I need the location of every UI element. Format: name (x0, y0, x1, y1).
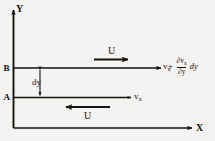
partial-derivative-fraction: ∂vx ∂y (176, 57, 188, 76)
plus-sign: + (168, 61, 173, 71)
lower-velocity-subscript: x (139, 95, 142, 102)
upper-layer-label: B (4, 64, 10, 73)
differential-dy: dy (190, 61, 198, 71)
fraction-numerator: ∂vx (176, 57, 188, 67)
numerator-symbol: ∂v (177, 56, 184, 65)
upper-shear-label: U (108, 46, 115, 56)
numerator-subscript: x (184, 60, 187, 66)
velocity-gradient-diagram: Y X B A dy U U vx vx + ∂vx ∂y dy (0, 0, 215, 141)
velocity-gradient-expression: + ∂vx ∂y dy (168, 57, 198, 76)
lower-layer-label: A (4, 93, 11, 102)
y-axis-label: Y (16, 4, 23, 14)
fraction-denominator: ∂y (177, 67, 186, 76)
lower-shear-label: U (84, 111, 91, 121)
lower-velocity-label: vx (134, 92, 142, 102)
dy-label: dy (32, 78, 41, 87)
x-axis-label: X (196, 123, 203, 133)
